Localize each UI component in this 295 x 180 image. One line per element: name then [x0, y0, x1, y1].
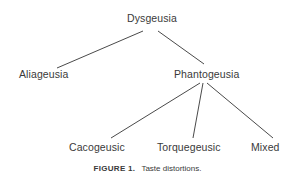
edge-dysgeusia-phantogeusia: [158, 31, 204, 64]
edge-dysgeusia-aliageusia: [57, 31, 143, 68]
tree-connectors: [0, 0, 295, 180]
node-phantogeusia: Phantogeusia: [174, 68, 239, 80]
figure-caption: FIGURE 1.Taste distortions.: [0, 164, 295, 173]
edge-phantogeusia-mixed: [207, 83, 273, 138]
node-torquegeusic: Torquegeusic: [157, 141, 221, 153]
node-dysgeusia: Dysgeusia: [127, 12, 177, 24]
node-aliageusia: Aliageusia: [19, 68, 68, 80]
edge-phantogeusia-cacogeusic: [111, 83, 200, 138]
node-cacogeusic: Cacogeusic: [69, 141, 125, 153]
edge-phantogeusia-torquegeusic: [193, 83, 203, 138]
figure-label: FIGURE 1.: [94, 164, 136, 173]
figure-caption-text: Taste distortions.: [141, 164, 201, 173]
node-mixed: Mixed: [251, 141, 280, 153]
